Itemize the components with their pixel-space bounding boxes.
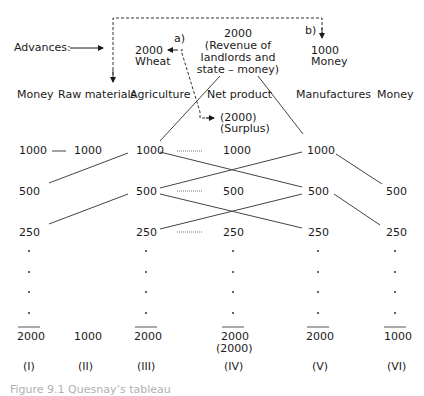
col1-total: 2000 (17, 331, 45, 343)
col3-total: 2000 (134, 331, 162, 343)
figure-caption: Figure 9.1 Quesnay’s tableau (10, 383, 171, 396)
col1-roman: (I) (23, 361, 35, 373)
col4-total-note: (2000) (216, 343, 253, 355)
col5-roman: (V) (312, 361, 328, 373)
col4-roman: (IV) (224, 361, 243, 373)
col2-total: 1000 (74, 331, 102, 343)
col6-total: 1000 (384, 331, 412, 343)
col6-roman: (VI) (387, 361, 406, 373)
col2-roman: (II) (78, 361, 93, 373)
col5-total: 2000 (306, 331, 334, 343)
col3-roman: (III) (137, 361, 155, 373)
